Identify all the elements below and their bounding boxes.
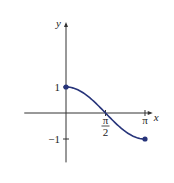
y-axis-label: y bbox=[55, 17, 61, 29]
y-axis-arrow bbox=[64, 22, 68, 27]
cosine-chart: x y π2π1−1 bbox=[0, 0, 174, 183]
end-point bbox=[142, 136, 147, 141]
y-tick-label: 1 bbox=[55, 81, 61, 93]
x-tick-label-denominator: 2 bbox=[103, 126, 109, 138]
x-tick-label: π bbox=[142, 114, 148, 126]
start-point bbox=[63, 84, 68, 89]
x-axis-label: x bbox=[153, 111, 159, 123]
y-tick-label: −1 bbox=[48, 133, 60, 145]
x-axis-arrow bbox=[148, 111, 153, 115]
